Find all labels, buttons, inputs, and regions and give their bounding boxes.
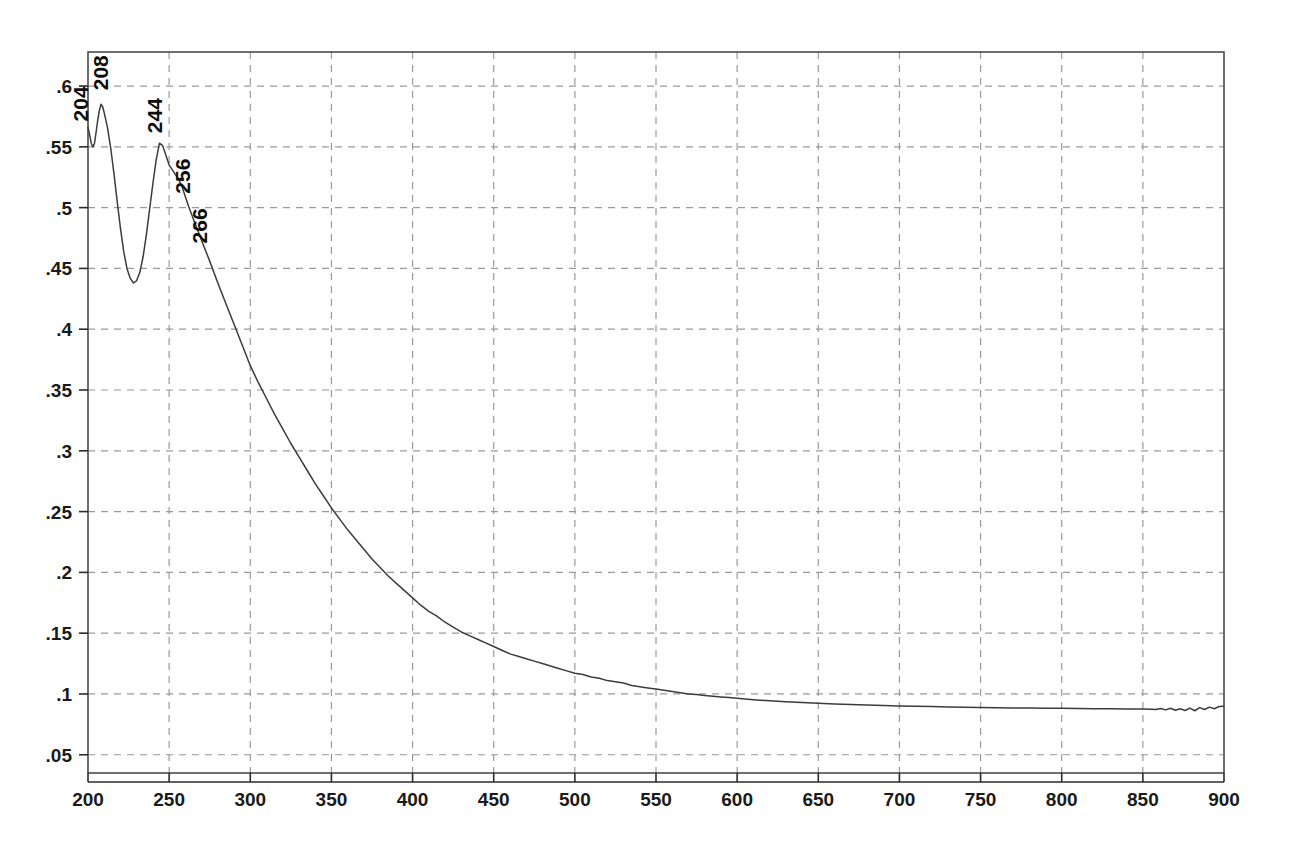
y-tick-label: .25 [46, 502, 73, 523]
y-tick-label: .2 [56, 562, 72, 583]
x-tick-label: 200 [72, 789, 104, 810]
x-tick-label: 250 [153, 789, 185, 810]
y-tick-label: .3 [56, 441, 72, 462]
peak-label-256: 256 [171, 159, 194, 194]
y-tick-label: .15 [46, 623, 73, 644]
y-tick-label: .35 [46, 380, 73, 401]
chart-background [0, 0, 1289, 849]
peak-label-266: 266 [188, 208, 211, 243]
peak-label-204: 204 [69, 86, 92, 121]
x-tick-label: 900 [1208, 789, 1240, 810]
y-tick-label: .05 [46, 745, 73, 766]
x-tick-label: 850 [1127, 789, 1159, 810]
peak-label-208: 208 [89, 55, 112, 90]
spectrum-chart: 2002503003504004505005506006507007508008… [0, 0, 1289, 849]
x-tick-label: 450 [478, 789, 510, 810]
x-tick-label: 550 [640, 789, 672, 810]
x-tick-label: 600 [721, 789, 753, 810]
y-tick-label: .4 [56, 319, 72, 340]
chart-canvas: 2002503003504004505005506006507007508008… [0, 0, 1289, 849]
x-tick-label: 800 [1046, 789, 1078, 810]
y-tick-label: .55 [46, 137, 73, 158]
y-tick-label: .5 [56, 198, 72, 219]
x-tick-label: 750 [965, 789, 997, 810]
x-tick-label: 650 [802, 789, 834, 810]
peak-label-244: 244 [143, 98, 166, 133]
x-tick-label: 500 [559, 789, 591, 810]
x-axis-tick-labels: 2002503003504004505005506006507007508008… [72, 789, 1240, 810]
x-tick-label: 350 [316, 789, 348, 810]
x-tick-label: 300 [234, 789, 266, 810]
y-tick-label: .1 [56, 684, 72, 705]
x-tick-label: 400 [397, 789, 429, 810]
x-tick-label: 700 [884, 789, 916, 810]
y-tick-label: .45 [46, 258, 73, 279]
